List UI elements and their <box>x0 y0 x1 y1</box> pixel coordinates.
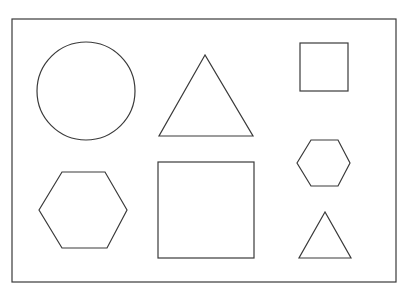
shapes-diagram <box>0 0 414 299</box>
small-triangle-shape <box>299 212 351 258</box>
large-triangle-shape <box>159 55 253 136</box>
small-square-shape <box>300 43 348 91</box>
diagram-frame <box>12 19 396 282</box>
large-square-shape <box>158 162 254 258</box>
small-hexagon-shape <box>297 140 350 186</box>
large-circle-shape <box>37 42 135 140</box>
large-hexagon-shape <box>39 172 127 248</box>
shapes-canvas <box>0 0 414 299</box>
